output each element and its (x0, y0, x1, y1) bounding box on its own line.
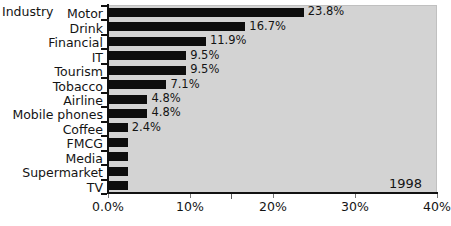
x-axis-tick-label: 20% (259, 199, 287, 214)
x-axis-tick (273, 194, 274, 198)
y-axis-tick (101, 19, 107, 21)
category-label: Airline (0, 94, 103, 107)
category-label: Tobacco (0, 80, 103, 93)
category-label: Supermarket (0, 166, 103, 179)
category-label: FMCG (0, 137, 103, 150)
bar (108, 22, 245, 31)
category-axis-labels: MotorDrinkFinancialITTourismTobaccoAirli… (0, 5, 103, 193)
bar-value-label: 16.7% (249, 21, 286, 32)
bar-value-label: 4.8% (151, 107, 180, 118)
bar-value-label: 9.5% (190, 50, 219, 61)
x-axis-minor-tick (231, 194, 232, 199)
bar (108, 181, 128, 190)
y-axis-tick (101, 106, 107, 108)
bar (108, 80, 166, 89)
y-axis-tick (101, 179, 107, 181)
x-axis-tick (437, 194, 438, 198)
bar (108, 66, 186, 75)
bar (108, 8, 304, 17)
bar-value-label: 4.8% (151, 93, 180, 104)
y-axis-tick (101, 77, 107, 79)
y-axis-tick (101, 121, 107, 123)
x-axis-tick (355, 194, 356, 198)
x-axis-tick-label: 10% (176, 199, 204, 214)
category-label: Tourism (0, 65, 103, 78)
x-axis-tick-label: 30% (341, 199, 369, 214)
bar (108, 109, 147, 118)
y-axis-tick (101, 164, 107, 166)
bar (108, 37, 206, 46)
bar-value-label: 9.5% (190, 64, 219, 75)
category-label: Coffee (0, 123, 103, 136)
y-axis-tick (101, 5, 107, 7)
bar (108, 95, 147, 104)
bar-value-label: 2.4% (132, 122, 161, 133)
category-label: TV (0, 181, 103, 194)
y-axis-tick (101, 92, 107, 94)
bar (108, 167, 128, 176)
x-axis-tick-label: 40% (423, 199, 451, 214)
category-label: Motor (0, 7, 103, 20)
bar (108, 152, 128, 161)
bar-value-label: 7.1% (170, 79, 199, 90)
y-axis-tick (101, 135, 107, 137)
y-axis-tick (101, 34, 107, 36)
bar (108, 138, 128, 147)
y-axis-tick (101, 48, 107, 50)
category-label: Financial (0, 36, 103, 49)
x-axis-tick (108, 194, 109, 198)
y-axis-tick (101, 193, 107, 195)
x-axis-tick (190, 194, 191, 198)
x-axis-tick-label: 0.0% (92, 199, 124, 214)
bar-value-label: 11.9% (210, 35, 247, 46)
bar (108, 51, 186, 60)
y-axis-tick (101, 150, 107, 152)
category-label: Media (0, 152, 103, 165)
year-annotation: 1998 (389, 176, 422, 191)
bar-value-label: 23.8% (308, 6, 345, 17)
bar (108, 123, 128, 132)
category-label: IT (0, 51, 103, 64)
y-axis-tick (101, 63, 107, 65)
category-label: Mobile phones (0, 108, 103, 121)
category-label: Drink (0, 22, 103, 35)
